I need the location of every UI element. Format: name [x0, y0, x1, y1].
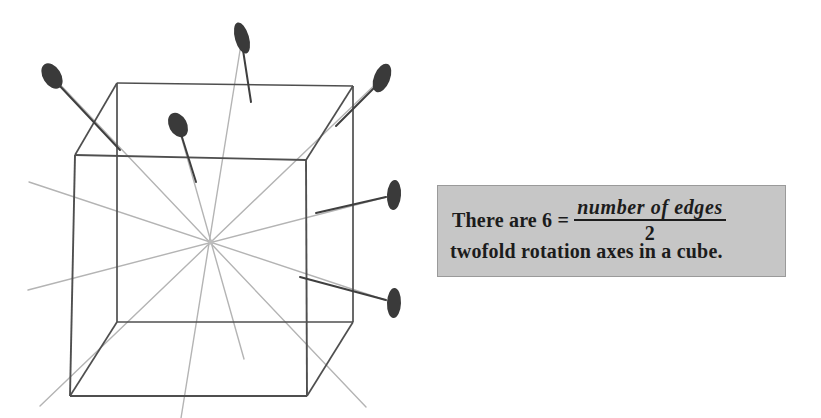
twofold-marker-right-upper-icon	[386, 180, 402, 211]
cube-back-face	[117, 83, 353, 322]
stem-upper-right	[336, 86, 376, 126]
fraction-numerator: number of edges	[574, 197, 726, 219]
caption-trailing-text: twofold rotation axes in a cube.	[450, 240, 723, 263]
cube-edge-depth-bottom-left	[70, 322, 117, 396]
cube-edge-depth-top-left	[75, 83, 117, 155]
marker-stems	[58, 50, 386, 300]
figure-page: There are 6 = number of edges 2 twofold …	[0, 0, 821, 418]
cube-front-face	[70, 155, 307, 396]
cube-rotation-axes-diagram	[0, 0, 440, 418]
twofold-marker-top-icon	[231, 21, 253, 56]
stem-right-lower	[300, 277, 386, 300]
rotation-axis-lines	[28, 38, 394, 418]
cube-edge-depth-bottom-right	[307, 322, 353, 396]
twofold-marker-right-lower-icon	[386, 288, 401, 318]
caption-box: There are 6 = number of edges 2 twofold …	[437, 185, 786, 277]
caption-line-equation: There are 6 = number of edges 2	[452, 197, 775, 243]
stem-right-upper	[316, 197, 386, 213]
cube-edge-front-top	[75, 155, 306, 160]
caption-line-trailing: twofold rotation axes in a cube.	[450, 240, 775, 263]
cube-edge-depth-top-right	[306, 86, 353, 160]
edges-over-two-fraction: number of edges 2	[574, 197, 726, 243]
stem-top	[243, 50, 251, 102]
rotation-axis-2	[181, 38, 242, 418]
twofold-marker-inner-top-icon	[164, 109, 192, 140]
cube-edge-front-left	[70, 155, 75, 396]
caption-lead-text: There are 6 =	[452, 209, 569, 232]
cube-center-point	[208, 239, 213, 244]
